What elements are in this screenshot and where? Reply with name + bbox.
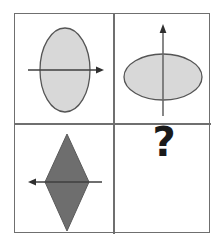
axis-arrowhead-up-icon xyxy=(160,24,167,33)
matrix-reasoning-puzzle: ? xyxy=(0,0,224,247)
axis-arrowhead-left-icon xyxy=(28,179,36,186)
question-mark-icon: ? xyxy=(152,122,175,162)
matrix-cell-top-left xyxy=(15,14,113,124)
matrix-cell-bottom-right: ? xyxy=(113,124,211,234)
matrix-cell-bottom-left xyxy=(15,124,113,234)
axis-arrowhead-right-icon xyxy=(96,67,104,74)
matrix-cell-top-right xyxy=(113,14,211,124)
missing-answer-placeholder: ? xyxy=(113,124,211,164)
matrix-frame: ? xyxy=(14,13,210,233)
